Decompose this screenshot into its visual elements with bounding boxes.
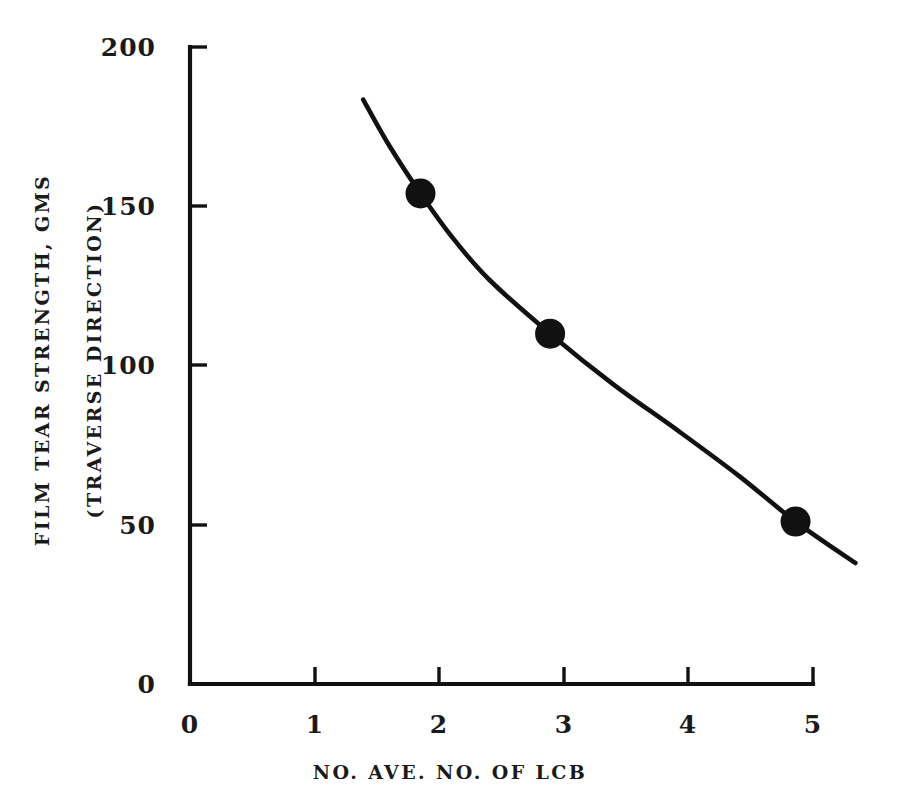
y-tick-label-150: 150 <box>96 194 156 219</box>
y-tick-label-200: 200 <box>96 35 156 60</box>
data-series-group <box>363 100 855 563</box>
x-tick-label-1: 1 <box>306 712 324 737</box>
y-tick-label-0: 0 <box>96 672 156 697</box>
data-curve-0 <box>363 100 855 563</box>
x-tick-label-4: 4 <box>679 712 697 737</box>
y-tick-label-50: 50 <box>96 513 156 538</box>
x-axis-title: NO. AVE. NO. OF LCB <box>313 763 588 782</box>
y-axis-title: FILM TEAR STRENGTH, GMS (TRAVERSE DIRECT… <box>31 174 105 546</box>
data-point-0 <box>406 179 436 209</box>
x-tick-label-5: 5 <box>804 712 822 737</box>
data-point-2 <box>781 507 811 537</box>
data-point-1 <box>535 319 565 349</box>
x-tick-label-3: 3 <box>555 712 573 737</box>
chart-figure: 200 150 100 50 0 0 1 2 3 4 5 NO. AVE. NO… <box>0 0 900 800</box>
x-tick-label-0: 0 <box>181 712 199 737</box>
y-tick-label-100: 100 <box>96 353 156 378</box>
y-axis-title-line-1: FILM TEAR STRENGTH, GMS <box>31 174 53 546</box>
x-tick-label-2: 2 <box>430 712 448 737</box>
y-axis-title-line-2: (TRAVERSE DIRECTION) <box>83 174 105 546</box>
